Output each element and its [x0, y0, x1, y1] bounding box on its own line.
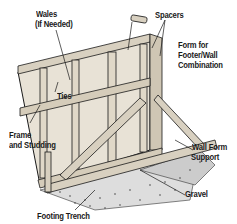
- label-form-line3: Combination: [178, 61, 223, 70]
- label-support-line1: Wall Form: [192, 143, 227, 152]
- label-wales-note: (If Needed): [35, 20, 73, 29]
- label-gravel: Gravel: [185, 190, 208, 199]
- label-wales: Wales: [36, 10, 57, 19]
- label-frame-line2: and Studding: [9, 141, 56, 150]
- label-support-line2: Support: [191, 153, 219, 162]
- label-form-line1: Form for: [178, 41, 208, 50]
- label-form-line2: Footer/Wall: [178, 51, 217, 60]
- label-frame-line1: Frame: [9, 131, 31, 140]
- label-footing-trench: Footing Trench: [37, 212, 90, 221]
- label-ties: Ties: [57, 92, 71, 101]
- label-spacers: Spacers: [155, 11, 184, 20]
